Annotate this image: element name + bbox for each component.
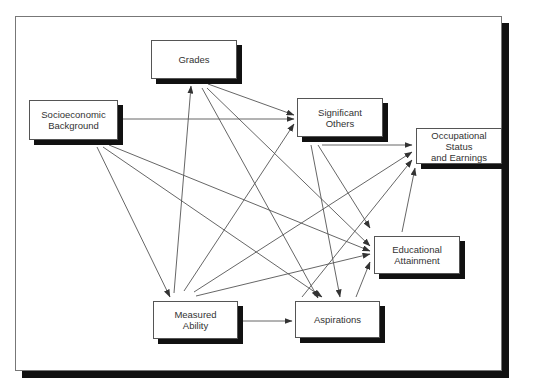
arrow-sigothers-to-aspirations: [311, 145, 340, 297]
node-occupational-status-earnings: Occupational Status and Earnings: [416, 128, 502, 164]
node-educational-attainment: Educational Attainment: [374, 236, 460, 274]
node-socioeconomic-background: Socioeconomic Background: [29, 100, 118, 140]
arrow-ability-to-grades: [174, 86, 191, 293]
arrow-ability-to-sigothers: [184, 124, 294, 291]
arrow-education-to-occupational: [402, 168, 415, 232]
arrow-socio-to-aspirations: [103, 147, 322, 297]
arrow-socio-to-education: [109, 145, 370, 251]
arrow-grades-to-sigothers: [208, 84, 294, 115]
node-grades: Grades: [151, 40, 237, 79]
node-significant-others: Significant Others: [297, 98, 383, 137]
arrow-sigothers-to-education: [318, 145, 370, 228]
arrow-aspirations-to-occupational: [302, 160, 412, 297]
arrow-aspirations-to-education: [356, 262, 370, 297]
node-measured-ability: Measured Ability: [153, 301, 238, 339]
node-aspirations: Aspirations: [295, 301, 380, 338]
arrow-socio-to-ability: [97, 147, 170, 297]
edge-layer: [0, 0, 542, 386]
arrow-ability-to-education: [196, 254, 370, 296]
diagram-canvas: Grades Socioeconomic Background Signific…: [0, 0, 542, 386]
